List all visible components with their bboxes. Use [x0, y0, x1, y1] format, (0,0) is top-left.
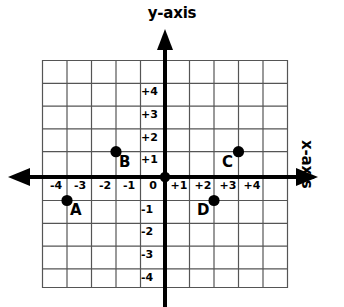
- y-tick-label-+3: +3: [141, 109, 163, 121]
- x-tick-label-0: 0: [143, 180, 163, 192]
- y-axis-title: y-axis: [0, 4, 344, 22]
- x-axis-title: x-axis: [298, 140, 316, 189]
- x-tick-label--3: -3: [69, 180, 91, 192]
- plot-canvas: [0, 0, 344, 307]
- x-tick-label-+3: +3: [217, 180, 239, 192]
- y-tick-label--4: -4: [141, 272, 163, 284]
- coordinate-plane-figure: y-axis x-axis -4 -3 -2 -1 0 +1 +2 +3 +4 …: [0, 0, 344, 307]
- y-tick-label--2: -2: [141, 226, 163, 238]
- y-axis-arrow-up: [157, 29, 173, 50]
- data-point-c: [233, 146, 244, 157]
- point-label-a: A: [70, 203, 82, 218]
- y-tick-label-+4: +4: [141, 86, 163, 98]
- x-tick-label-+4: +4: [241, 180, 263, 192]
- data-point-d: [208, 195, 219, 206]
- x-tick-label--2: -2: [94, 180, 116, 192]
- x-tick-label--1: -1: [118, 180, 140, 192]
- y-tick-label-+1: +1: [141, 154, 163, 166]
- y-tick-label--1: -1: [141, 204, 163, 216]
- point-label-b: B: [119, 155, 130, 170]
- y-tick-label--3: -3: [141, 249, 163, 261]
- x-tick-label-+2: +2: [192, 180, 214, 192]
- x-tick-label-+1: +1: [168, 180, 190, 192]
- y-tick-label-+2: +2: [141, 132, 163, 144]
- x-tick-label--4: -4: [45, 180, 67, 192]
- point-label-c: C: [222, 155, 233, 170]
- y-axis: [157, 29, 173, 307]
- point-label-d: D: [197, 203, 209, 218]
- x-axis-arrow-left: [8, 168, 30, 186]
